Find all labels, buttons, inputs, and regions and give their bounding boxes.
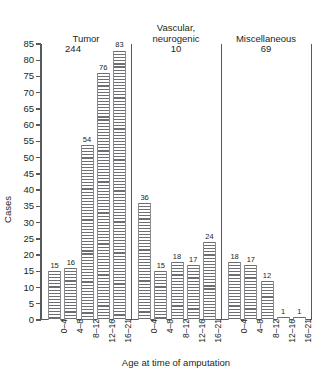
y-tick-label: 40 [23, 184, 34, 195]
x-tick-label: 0–4 [59, 319, 69, 355]
y-tick-label: 45 [23, 168, 34, 179]
x-tick-label: 16–21 [303, 319, 312, 355]
x-tick-label: 12–16 [197, 319, 207, 355]
group-total-label: 69 [221, 44, 311, 54]
y-tick-label: 5 [29, 298, 34, 309]
y-tick-label: 20 [23, 249, 34, 260]
x-tick-label: 8–12 [91, 319, 101, 355]
bar [81, 145, 94, 320]
bar [154, 271, 167, 320]
bar-value-label: 17 [238, 256, 264, 264]
y-tick-label: 15 [23, 265, 34, 276]
group-separator-line [131, 44, 132, 320]
x-tick-label: 16–21 [213, 319, 223, 355]
group-separator-line [221, 44, 222, 320]
bar-value-label: 16 [58, 259, 84, 267]
bar-value-label: 36 [132, 194, 158, 202]
x-tick-label: 16–21 [123, 319, 133, 355]
x-tick-label: 12–16 [287, 319, 297, 355]
x-axis-title: Age at time of amputation [41, 357, 311, 368]
x-tick-label: 4–8 [75, 319, 85, 355]
chart-figure: TumorVascular,neurogenicMiscellaneous Ca… [0, 0, 312, 374]
y-tick-label: 60 [23, 119, 34, 130]
bar [97, 73, 110, 320]
bar-value-label: 15 [148, 262, 174, 270]
bar-value-label: 24 [196, 233, 222, 241]
bar-value-label: 54 [74, 136, 100, 144]
y-tick-label: 35 [23, 200, 34, 211]
x-tick-label: 8–12 [271, 319, 281, 355]
group-header-line: Vascular, [131, 22, 221, 33]
x-tick-label: 12–16 [107, 319, 117, 355]
y-axis-title: Cases [2, 180, 13, 240]
y-axis-spine [40, 44, 41, 320]
y-tick-label: 80 [23, 54, 34, 65]
bar [113, 51, 126, 321]
x-tick-label: 0–4 [239, 319, 249, 355]
bar [187, 265, 200, 320]
x-tick-label: 4–8 [165, 319, 175, 355]
y-tick-label: 25 [23, 233, 34, 244]
bar [228, 262, 241, 320]
bar-value-label: 12 [254, 272, 280, 280]
y-tick-label: 85 [23, 38, 34, 49]
group-total-label: 10 [131, 44, 221, 54]
group-separator-line [311, 44, 312, 320]
x-axis: 0–44–88–1212–1616–210–44–88–1212–1616–21… [41, 321, 311, 357]
y-tick-label: 55 [23, 135, 34, 146]
y-tick-label: 50 [23, 152, 34, 163]
x-tick-label: 0–4 [149, 319, 159, 355]
bar-value-label: 17 [180, 256, 206, 264]
group-header-row: TumorVascular,neurogenicMiscellaneous [41, 6, 311, 44]
bar-value-label: 83 [106, 41, 132, 49]
bar [203, 242, 216, 320]
group-total-label: 244 [41, 44, 105, 54]
bar-value-label: 1 [286, 308, 312, 316]
y-tick-label: 0 [29, 314, 34, 325]
bar-value-label: 76 [90, 64, 116, 72]
y-tick-label: 75 [23, 70, 34, 81]
bar [48, 271, 61, 320]
group-header-label: Vascular,neurogenic [131, 22, 221, 44]
y-tick-label: 10 [23, 282, 34, 293]
y-tick-label: 70 [23, 87, 34, 98]
x-tick-label: 4–8 [255, 319, 265, 355]
y-axis: Cases 0510152025303540455055606570758085 [0, 44, 41, 320]
bar [64, 268, 77, 320]
y-tick-label: 65 [23, 103, 34, 114]
bar [171, 262, 184, 320]
x-tick-label: 8–12 [181, 319, 191, 355]
y-tick-label: 30 [23, 217, 34, 228]
